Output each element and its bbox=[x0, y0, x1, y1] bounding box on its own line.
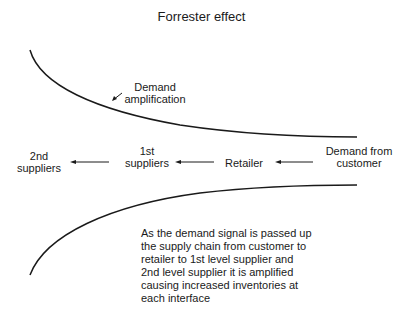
description-line: each interface bbox=[141, 292, 321, 305]
chain-node-retailer: Retailer bbox=[216, 157, 272, 169]
description-line: the supply chain from customer to bbox=[141, 240, 321, 253]
node-label-line: Retailer bbox=[216, 157, 272, 169]
node-label-line: suppliers bbox=[116, 157, 178, 169]
node-label-line: Demand from bbox=[318, 145, 400, 157]
arrow-left-icon bbox=[275, 160, 313, 164]
upper-funnel-curve bbox=[30, 50, 357, 137]
description-line: 2nd level supplier it is amplified bbox=[141, 266, 321, 279]
node-label-line: suppliers bbox=[8, 162, 70, 174]
arrow-left-icon bbox=[175, 160, 214, 164]
annotation-line: amplification bbox=[124, 93, 186, 105]
node-label-line: 1st bbox=[116, 145, 178, 157]
chain-node-demand-from-customer: Demand from customer bbox=[318, 145, 400, 169]
description-line: causing increased inventories at bbox=[141, 279, 321, 292]
chain-node-2nd-suppliers: 2nd suppliers bbox=[8, 150, 70, 174]
arrow-left-icon bbox=[70, 160, 109, 164]
chain-node-1st-suppliers: 1st suppliers bbox=[116, 145, 178, 169]
demand-amplification-label: Demand amplification bbox=[124, 81, 186, 105]
description-line: retailer to 1st level supplier and bbox=[141, 253, 321, 266]
node-label-line: customer bbox=[318, 157, 400, 169]
description-line: As the demand signal is passed up bbox=[141, 227, 321, 240]
description-paragraph: As the demand signal is passed up the su… bbox=[141, 227, 321, 305]
amplification-arrow-icon bbox=[112, 93, 122, 101]
node-label-line: 2nd bbox=[8, 150, 70, 162]
annotation-line: Demand bbox=[124, 81, 186, 93]
